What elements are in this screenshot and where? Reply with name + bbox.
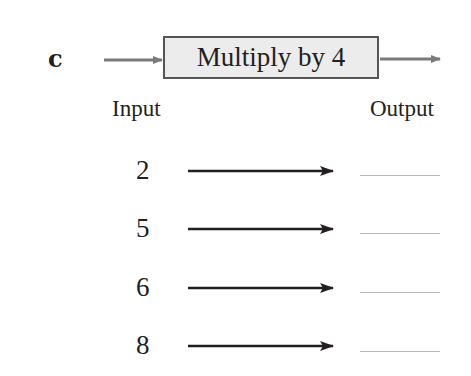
machine-rule: Multiply by 4	[197, 42, 346, 73]
output-blank[interactable]	[360, 292, 440, 293]
input-value: 2	[136, 155, 160, 186]
output-blank[interactable]	[360, 233, 440, 234]
output-blank[interactable]	[360, 175, 440, 176]
input-value: 8	[136, 330, 160, 361]
function-machine-box: Multiply by 4	[163, 36, 379, 79]
output-header: Output	[370, 96, 434, 122]
input-header: Input	[112, 96, 161, 122]
input-value: 5	[136, 213, 160, 244]
input-value: 6	[136, 272, 160, 303]
output-blank[interactable]	[360, 351, 440, 352]
